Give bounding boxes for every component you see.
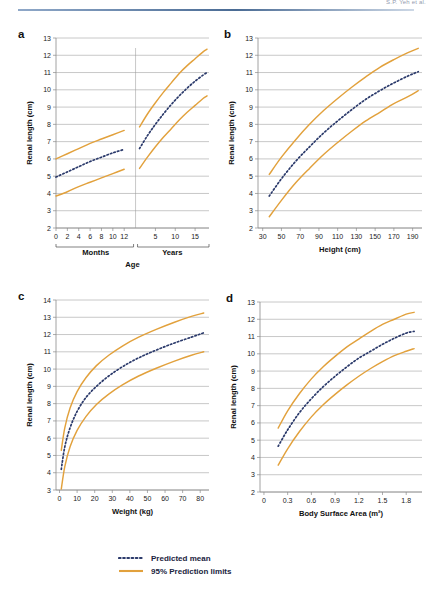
svg-text:12: 12	[120, 233, 128, 240]
svg-text:8: 8	[249, 121, 253, 128]
chart-panel-d: d 234567891011121300.30.60.91.21.51.8Bod…	[214, 286, 430, 544]
panel-letter-b: b	[224, 28, 231, 40]
svg-text:13: 13	[247, 299, 255, 306]
svg-text:7: 7	[47, 417, 51, 424]
svg-text:Renal length (cm): Renal length (cm)	[25, 101, 34, 165]
svg-text:110: 110	[332, 233, 343, 240]
svg-text:1.8: 1.8	[401, 497, 411, 504]
svg-text:5: 5	[251, 437, 255, 444]
panel-letter-d: d	[226, 292, 233, 304]
svg-text:4: 4	[77, 233, 81, 240]
chart-panel-c: c 3456789101112131401020304050607080Weig…	[4, 286, 216, 544]
svg-text:0.3: 0.3	[283, 497, 293, 504]
svg-text:10: 10	[43, 86, 51, 93]
svg-text:14: 14	[43, 297, 51, 304]
svg-text:20: 20	[91, 495, 99, 502]
svg-text:4: 4	[251, 454, 255, 461]
svg-text:30: 30	[259, 233, 267, 240]
svg-text:12: 12	[43, 52, 51, 59]
chart-a-svg: 234567891011121302468101251015MonthsYear…	[4, 22, 216, 284]
chart-d-svg: 234567891011121300.30.60.91.21.51.8Body …	[214, 286, 430, 544]
svg-text:6: 6	[249, 155, 253, 162]
header-rule	[18, 9, 414, 11]
svg-text:13: 13	[43, 35, 51, 42]
svg-text:90: 90	[315, 233, 323, 240]
svg-text:6: 6	[47, 435, 51, 442]
svg-text:2: 2	[65, 233, 69, 240]
svg-text:11: 11	[246, 69, 253, 76]
svg-text:Years: Years	[162, 248, 182, 257]
svg-text:10: 10	[245, 86, 253, 93]
running-head-text: S.P. Yeh et al.	[386, 0, 426, 5]
svg-text:6: 6	[47, 155, 51, 162]
chart-panel-b: b 23456789101112133050709011013015017019…	[214, 22, 430, 284]
svg-text:8: 8	[251, 385, 255, 392]
svg-text:13: 13	[43, 314, 51, 321]
svg-text:10: 10	[43, 366, 51, 373]
svg-text:9: 9	[47, 383, 51, 390]
svg-text:Weight (kg): Weight (kg)	[112, 507, 154, 516]
svg-text:40: 40	[126, 495, 134, 502]
svg-text:6: 6	[88, 233, 92, 240]
svg-text:1.5: 1.5	[378, 497, 388, 504]
svg-text:5: 5	[47, 452, 51, 459]
svg-text:3: 3	[251, 471, 255, 478]
page-header: S.P. Yeh et al.	[0, 0, 432, 18]
svg-text:130: 130	[351, 233, 363, 240]
svg-text:Months: Months	[82, 248, 109, 257]
chart-panel-a: a 234567891011121302468101251015MonthsYe…	[4, 22, 216, 284]
svg-text:Body Surface Area (m²): Body Surface Area (m²)	[299, 509, 384, 518]
svg-text:11: 11	[248, 333, 255, 340]
svg-text:10: 10	[171, 233, 179, 240]
svg-text:0: 0	[54, 233, 58, 240]
svg-text:15: 15	[191, 233, 199, 240]
panel-letter-c: c	[18, 290, 24, 302]
svg-text:11: 11	[44, 69, 51, 76]
svg-text:5: 5	[153, 233, 157, 240]
legend-swatch-dotted	[118, 553, 144, 563]
svg-text:0.6: 0.6	[306, 497, 316, 504]
svg-text:Renal length (cm): Renal length (cm)	[227, 101, 236, 165]
svg-text:0.9: 0.9	[330, 497, 340, 504]
svg-text:6: 6	[251, 419, 255, 426]
svg-text:2: 2	[249, 225, 253, 232]
svg-text:5: 5	[249, 173, 253, 180]
svg-text:3: 3	[249, 207, 253, 214]
svg-text:4: 4	[47, 190, 51, 197]
svg-text:8: 8	[47, 121, 51, 128]
svg-text:70: 70	[296, 233, 304, 240]
svg-text:50: 50	[278, 233, 286, 240]
legend-label-prediction-limits: 95% Prediction limits	[151, 567, 231, 576]
svg-text:30: 30	[108, 495, 116, 502]
legend-label-predicted-mean: Predicted mean	[151, 554, 211, 563]
svg-text:11: 11	[44, 348, 51, 355]
svg-text:10: 10	[247, 350, 255, 357]
svg-text:10: 10	[73, 495, 81, 502]
legend-swatch-solid	[118, 566, 144, 576]
svg-text:7: 7	[47, 138, 51, 145]
svg-text:8: 8	[100, 233, 104, 240]
panel-letter-a: a	[18, 28, 24, 40]
svg-text:50: 50	[144, 495, 152, 502]
svg-text:1.2: 1.2	[354, 497, 364, 504]
svg-text:2: 2	[47, 225, 51, 232]
svg-text:70: 70	[179, 495, 187, 502]
svg-text:150: 150	[369, 233, 381, 240]
svg-text:Height (cm): Height (cm)	[319, 245, 361, 254]
svg-text:12: 12	[43, 331, 51, 338]
svg-text:7: 7	[249, 138, 253, 145]
svg-text:Age: Age	[125, 260, 139, 269]
svg-text:7: 7	[251, 402, 255, 409]
svg-text:3: 3	[47, 207, 51, 214]
svg-text:5: 5	[47, 173, 51, 180]
svg-text:13: 13	[245, 35, 253, 42]
svg-text:4: 4	[249, 190, 253, 197]
svg-text:3: 3	[47, 487, 51, 494]
svg-text:10: 10	[109, 233, 117, 240]
svg-text:2: 2	[251, 489, 255, 496]
svg-text:9: 9	[249, 104, 253, 111]
svg-text:9: 9	[47, 104, 51, 111]
svg-text:12: 12	[247, 316, 255, 323]
chart-b-svg: 234567891011121330507090110130150170190H…	[214, 22, 430, 284]
svg-text:60: 60	[161, 495, 169, 502]
